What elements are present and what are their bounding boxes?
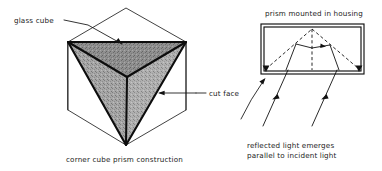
glass-cube-leader-line (64, 20, 122, 44)
external-rays (263, 70, 337, 126)
housing-cut-face-leader-arrow (259, 78, 265, 84)
prism-right-edge (330, 45, 339, 70)
corner-cube-prism-figure: glass cube corner cube prism constructio… (0, 0, 382, 171)
prism-left-edge (286, 44, 296, 70)
cut-face-label: cut face (209, 89, 240, 98)
cut-face-leader-arrow (158, 91, 165, 95)
diagram-canvas: glass cube corner cube prism constructio… (0, 0, 382, 171)
glass-cube-label: glass cube (14, 16, 54, 25)
prism-housing-drawing (261, 24, 364, 126)
right-panel-caption-line-2: parallel to incident light (247, 151, 337, 160)
incident-ray-arrow (272, 94, 279, 100)
dashed-right-face (312, 29, 359, 69)
cut-faces (68, 42, 186, 145)
right-panel-caption-line-1: reflected light emerges (247, 141, 334, 150)
prism-construction-lines (266, 29, 359, 70)
housing-outer-rect (261, 24, 364, 74)
left-panel-caption: corner cube prism construction (66, 155, 183, 164)
housing-cut-face-leader (241, 80, 264, 119)
internal-ray-segment-1 (296, 44, 312, 48)
internal-light-path (286, 44, 339, 70)
glass-cube-drawing (68, 8, 186, 145)
prism-housing-title: prism mounted in housing (265, 9, 363, 18)
emergent-ray-arrow (321, 94, 328, 100)
housing-inner-rect (264, 27, 361, 71)
